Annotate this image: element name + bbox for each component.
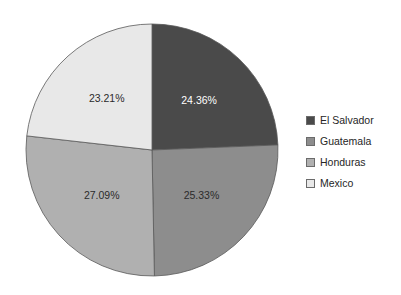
pie-slices <box>26 24 278 276</box>
pie-slice-value-label: 23.21% <box>89 92 125 104</box>
legend-item[interactable]: Mexico <box>306 173 401 194</box>
legend-item-label: Mexico <box>320 178 353 189</box>
pie-slice[interactable] <box>27 24 152 150</box>
pie-svg: 24.36%25.33%27.09%23.21% <box>0 0 295 295</box>
legend-swatch-icon <box>306 137 315 146</box>
pie-chart: 24.36%25.33%27.09%23.21% El SalvadorGuat… <box>0 0 401 295</box>
legend-item[interactable]: Guatemala <box>306 131 401 152</box>
legend-swatch-icon <box>306 116 315 125</box>
legend-swatch-icon <box>306 179 315 188</box>
legend-item-label: El Salvador <box>320 115 374 126</box>
legend-item-label: Guatemala <box>320 136 371 147</box>
pie-plot-area: 24.36%25.33%27.09%23.21% <box>0 0 295 295</box>
legend-item[interactable]: Honduras <box>306 152 401 173</box>
legend-item-label: Honduras <box>320 157 366 168</box>
pie-slice-value-label: 24.36% <box>181 94 217 106</box>
pie-slice-value-label: 25.33% <box>184 189 220 201</box>
pie-slice[interactable] <box>152 24 278 150</box>
pie-slice[interactable] <box>152 145 278 276</box>
pie-slice[interactable] <box>26 136 154 276</box>
chart-legend: El SalvadorGuatemalaHondurasMexico <box>306 110 401 194</box>
legend-swatch-icon <box>306 158 315 167</box>
pie-slice-value-label: 27.09% <box>84 189 120 201</box>
legend-item[interactable]: El Salvador <box>306 110 401 131</box>
